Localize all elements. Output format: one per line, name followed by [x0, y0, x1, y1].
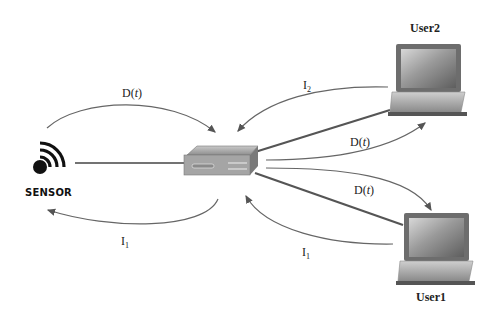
laptop-icon-user1 — [396, 213, 475, 285]
arrow-router-to-user1 — [266, 168, 431, 210]
edge-label-d-user1: D(t) — [354, 183, 374, 198]
edge-label-i1-sensor: I1 — [121, 234, 129, 250]
user1-label: User1 — [416, 290, 446, 305]
edge-label-i1-user1: I1 — [302, 245, 310, 261]
sensor-label: SENSOR — [25, 187, 72, 198]
arrow-sensor-to-router — [47, 105, 215, 132]
router-icon — [184, 146, 258, 175]
wireless-sensor-icon — [33, 143, 64, 174]
edge-label-d-user2: D(t) — [350, 135, 370, 150]
laptop-icon-user2 — [388, 44, 467, 116]
arrow-router-to-sensor — [48, 199, 218, 224]
edge-label-d-sensor: D(t) — [122, 86, 142, 101]
user2-label: User2 — [410, 21, 440, 36]
network-diagram — [0, 0, 490, 319]
arrow-user1-to-router — [246, 196, 393, 244]
edge-label-i2-user2: I2 — [303, 78, 311, 94]
arrow-user2-to-router — [238, 87, 388, 131]
